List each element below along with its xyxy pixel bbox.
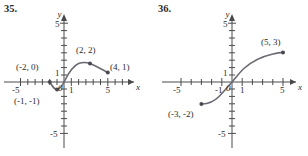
y-tick-label-1-35: 1	[55, 68, 60, 78]
data-point-36-b	[281, 50, 285, 54]
x-axis-label-35: x	[135, 82, 140, 92]
data-point-35-c	[88, 61, 92, 65]
origin-label-36: 0	[226, 83, 231, 93]
x-tick-label-neg1-36: -1	[215, 85, 223, 95]
x-axis-arrow-icon	[128, 79, 134, 85]
point-label-35-a: (-2, 0)	[16, 62, 39, 72]
y-axis-arrow-icon	[229, 14, 235, 21]
point-label-35-d: (4, 1)	[110, 62, 130, 72]
problem-panel-36: 36.	[154, 0, 308, 156]
x-tick-label-neg5-35: -5	[12, 85, 20, 95]
x-axis-label-36: x	[297, 82, 302, 92]
x-tick-label-1-36: 1	[240, 85, 245, 95]
y-axis-label-36: y	[225, 9, 230, 19]
x-axis-arrow-icon	[290, 79, 296, 85]
y-tick-label-1-36: 1	[223, 68, 228, 78]
y-tick-label-neg5-35: -5	[50, 129, 58, 139]
axes-35	[4, 14, 134, 148]
y-tick-label-5-35: 5	[55, 19, 60, 29]
y-axis-label-35: y	[57, 9, 62, 19]
point-label-36-a: (-3, -2)	[168, 109, 194, 119]
point-label-35-c: (2, 2)	[76, 45, 96, 55]
x-tick-label-1-35: 1	[69, 85, 74, 95]
origin-label-35: 0	[58, 83, 63, 93]
y-axis-arrow-icon	[61, 14, 67, 21]
axes-36	[162, 14, 296, 148]
point-label-36-b: (5, 3)	[261, 37, 281, 47]
x-tick-label-neg5-36: -5	[173, 85, 181, 95]
data-point-36-a	[199, 102, 203, 106]
x-tick-label-5-36: 5	[280, 85, 285, 95]
point-label-35-b: (-1, -1)	[14, 96, 40, 106]
data-point-35-a	[48, 80, 52, 84]
x-tick-label-5-35: 5	[106, 85, 111, 95]
graph-36: y x -5 -1 1 5 1 5 -5 0 (-3, -2) (5, 3)	[154, 0, 308, 156]
graph-35: y x -5 1 5 1 5 -5 0 (-2, 0) (-1, -1) (2,…	[0, 0, 154, 156]
y-tick-label-5-36: 5	[223, 19, 228, 29]
y-tick-label-neg5-36: -5	[218, 129, 226, 139]
problem-panel-35: 35.	[0, 0, 154, 156]
